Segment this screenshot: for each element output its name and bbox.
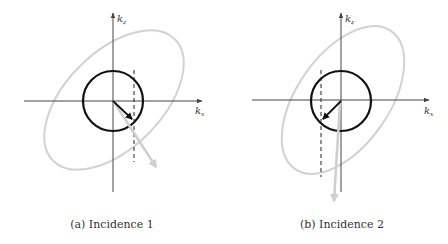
kx-axis-label: kx	[195, 105, 205, 117]
caption-panel-a: (a) Incidence 1	[70, 218, 154, 231]
panel-b: kz kx	[252, 5, 434, 201]
gray-arrow-icon	[114, 102, 156, 167]
gray-arrow-icon	[334, 103, 340, 201]
dispersion-ellipse	[19, 5, 209, 195]
caption-panel-b: (b) Incidence 2	[300, 218, 384, 231]
diagram-canvas: kz kx kz kx	[0, 0, 448, 244]
panel-a: kz kx	[19, 5, 209, 195]
kz-axis-label: kz	[345, 13, 355, 25]
figure: kz kx kz kx (a) Incidence 1 (b) Incidenc…	[0, 0, 448, 244]
kx-axis-label: kx	[424, 105, 434, 117]
kz-axis-label: kz	[117, 13, 127, 25]
